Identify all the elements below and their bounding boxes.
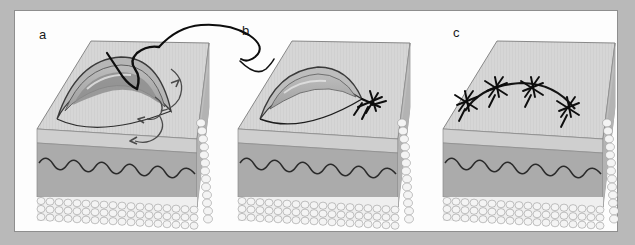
panel-b-illustration [220, 11, 425, 231]
panel-a-illustration [19, 11, 224, 231]
subcutaneous-fat-cells [238, 197, 399, 229]
figure-frame: a [14, 10, 618, 232]
subcutaneous-fat-cells [443, 197, 604, 229]
panel-a: a [19, 11, 224, 231]
panel-c-illustration [425, 11, 630, 231]
epidermis-top-surface [238, 41, 410, 139]
suture-thread-tail [240, 59, 274, 72]
panel-c: c [425, 11, 630, 231]
subcutaneous-fat-cells [37, 197, 198, 229]
panel-b: b [220, 11, 425, 231]
